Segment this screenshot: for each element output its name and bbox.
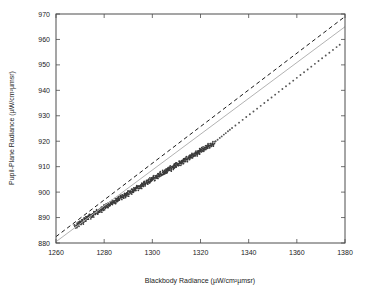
data-point xyxy=(147,180,149,182)
y-tick-label: 910 xyxy=(38,163,50,170)
y-tick-label: 900 xyxy=(38,189,50,196)
data-point xyxy=(169,165,171,167)
y-tick-label: 940 xyxy=(38,87,50,94)
data-point xyxy=(296,77,298,79)
y-tick-label: 890 xyxy=(38,214,50,221)
data-point xyxy=(238,122,240,124)
data-point xyxy=(314,63,316,65)
data-point xyxy=(172,166,174,168)
data-point xyxy=(300,74,302,76)
data-point xyxy=(160,171,162,173)
data-point xyxy=(112,202,114,204)
data-point xyxy=(303,71,305,73)
data-point xyxy=(263,102,265,104)
data-point xyxy=(186,156,188,158)
y-tick-label: 930 xyxy=(38,112,50,119)
data-point xyxy=(307,69,309,71)
data-point xyxy=(184,161,186,163)
data-point xyxy=(138,185,140,187)
data-point xyxy=(168,168,170,170)
data-point xyxy=(278,91,280,93)
data-point xyxy=(104,207,106,209)
data-point xyxy=(131,193,133,195)
data-point xyxy=(271,97,273,99)
y-tick-label: 960 xyxy=(38,36,50,43)
data-point xyxy=(260,105,262,107)
data-point xyxy=(339,44,341,46)
data-point xyxy=(126,194,128,196)
data-point xyxy=(199,153,201,155)
data-point xyxy=(125,197,127,199)
data-point xyxy=(137,189,139,191)
data-point xyxy=(285,85,287,87)
data-point xyxy=(157,178,159,180)
scatter-plot-figure: 1260128013001320134013601380 88089090091… xyxy=(0,0,365,302)
data-point xyxy=(321,57,323,59)
data-point xyxy=(130,191,132,193)
data-point xyxy=(128,195,130,197)
data-point xyxy=(116,200,118,202)
y-tick-label: 950 xyxy=(38,61,50,68)
data-point xyxy=(194,155,196,157)
data-point xyxy=(156,176,158,178)
data-point xyxy=(225,132,227,134)
data-point xyxy=(203,149,205,151)
data-point xyxy=(274,94,276,96)
data-point xyxy=(143,186,145,188)
data-point xyxy=(187,159,189,161)
data-point xyxy=(219,137,221,139)
data-point xyxy=(234,125,236,127)
data-point xyxy=(318,60,320,62)
data-point xyxy=(207,143,209,145)
x-tick-label: 1320 xyxy=(193,249,209,256)
data-point xyxy=(212,141,214,143)
data-point xyxy=(161,174,163,176)
data-point xyxy=(180,164,182,166)
data-point xyxy=(196,155,198,157)
data-point xyxy=(211,143,213,145)
x-tick-label: 1360 xyxy=(289,249,305,256)
data-point xyxy=(129,190,131,192)
data-point xyxy=(190,157,192,159)
data-point xyxy=(242,119,244,121)
x-tick-label: 1260 xyxy=(48,249,64,256)
data-point xyxy=(97,213,99,215)
data-point xyxy=(185,157,187,159)
data-point xyxy=(121,196,123,198)
data-point xyxy=(332,49,334,51)
data-point xyxy=(215,140,217,142)
x-axis-label: Blackbody Radiance (µW/cm²µmsr) xyxy=(145,277,255,285)
data-point xyxy=(217,139,219,141)
data-point xyxy=(200,151,202,153)
data-point xyxy=(221,135,223,137)
data-point xyxy=(147,183,149,185)
data-point xyxy=(101,211,103,213)
y-tick-label: 970 xyxy=(38,11,50,18)
data-point xyxy=(227,130,229,132)
data-point xyxy=(121,199,123,201)
data-point xyxy=(245,116,247,118)
data-point xyxy=(142,184,144,186)
data-point xyxy=(177,165,179,167)
data-point xyxy=(336,46,338,48)
data-point xyxy=(90,218,92,220)
chart-svg: 1260128013001320134013601380 88089090091… xyxy=(0,0,365,302)
data-point xyxy=(131,188,133,190)
data-point xyxy=(113,200,115,202)
y-axis-label: Pupil-Plane Radiance (µW/cm²µmsr) xyxy=(8,71,16,185)
y-tick-label: 920 xyxy=(38,138,50,145)
data-point xyxy=(183,163,185,165)
data-point xyxy=(73,224,75,226)
y-tick-label: 880 xyxy=(38,240,50,247)
data-point xyxy=(83,217,85,219)
data-point xyxy=(202,146,204,148)
data-point xyxy=(170,168,172,170)
data-point xyxy=(223,134,225,136)
data-point xyxy=(187,157,189,159)
data-point xyxy=(185,159,187,161)
data-point xyxy=(208,147,210,149)
data-point xyxy=(182,160,184,162)
data-point xyxy=(256,108,258,110)
data-point xyxy=(205,145,207,147)
data-point xyxy=(82,219,84,221)
